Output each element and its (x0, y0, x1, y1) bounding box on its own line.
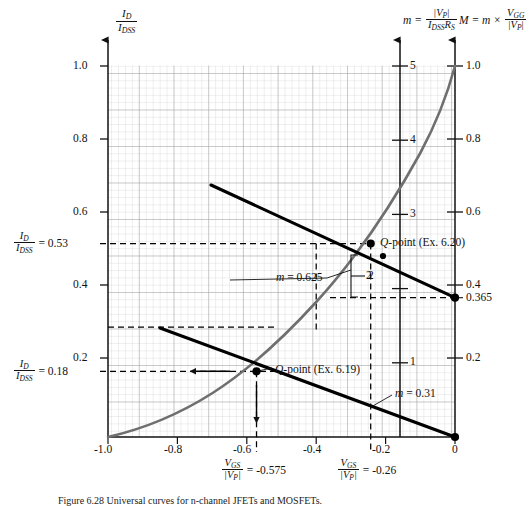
M-tick-2: 0.8 (466, 132, 480, 144)
m-axis-eq-lhs: m = (403, 14, 422, 26)
bottom-tick-2: -0.8 (164, 443, 182, 455)
q-point-619-label: Q-point (Ex. 6.19) (275, 363, 360, 375)
M-tick-5: 0.2 (466, 351, 480, 363)
bracket-2-label: 2 (366, 269, 372, 281)
origin-endpoint-marker (451, 433, 459, 441)
annotation-id-018: ID IDSS = 0.18 (14, 359, 68, 383)
left-tick-1: 1.0 (73, 59, 87, 71)
bottom-tick-1: -1.0 (94, 443, 112, 455)
m-axis-title: m = |VP| IDSSRS (403, 8, 457, 32)
annotation-vgs-0575: VGS |VP| = -0.575 (222, 458, 286, 482)
annotation-id-053-value: = 0.53 (39, 237, 69, 249)
annotation-m-0625: m = 0.625 (276, 271, 322, 283)
bottom-tick-6: 0 (452, 443, 458, 455)
bottom-tick-4: -0.4 (303, 443, 321, 455)
q-point-619-marker (252, 367, 260, 375)
figure-caption: Figure 6.28 Universal curves for n-chann… (58, 495, 322, 506)
m-tick-3: 3 (410, 207, 416, 219)
m-tick-2: 4 (410, 133, 416, 145)
grid-region (108, 66, 455, 438)
left-tick-2: 0.8 (73, 132, 87, 144)
M-axis-eq-lhs: M = m × (459, 14, 501, 26)
annotation-m-031: m = 0.31 (395, 387, 436, 399)
annotation-vgs-0575-value: = -0.575 (247, 464, 286, 476)
M-tick-3: 0.6 (466, 205, 480, 217)
m-endpoint-0365-marker (451, 294, 459, 302)
bracket-top-marker (380, 253, 386, 259)
M-axis-title: M = m × VGG |VP| (459, 8, 526, 32)
M-tick-4: 0.4 (466, 278, 480, 290)
M-tick-0365: 0.365 (466, 291, 492, 303)
annotation-vgs-026-value: = -0.26 (363, 464, 396, 476)
annotation-id-053: ID IDSS = 0.53 (14, 231, 68, 255)
M-tick-1: 1.0 (466, 59, 480, 71)
left-axis (100, 40, 108, 437)
q-point-620-marker (367, 239, 375, 247)
m-tick-5: 1 (410, 355, 416, 367)
q-point-620-label: Q-point (Ex. 6.20) (380, 236, 465, 248)
annotation-vgs-026: VGS |VP| = -0.26 (338, 458, 396, 482)
bottom-tick-5: -0.2 (372, 443, 390, 455)
bottom-tick-3: -0.6 (233, 443, 251, 455)
left-tick-5: 0.2 (73, 351, 87, 363)
left-tick-3: 0.6 (73, 205, 87, 217)
annotation-id-018-value: = 0.18 (39, 365, 69, 377)
bottom-axis (108, 437, 455, 444)
m-tick-1: 5 (410, 59, 416, 71)
left-axis-title: ID IDSS (116, 8, 137, 35)
left-tick-4: 0.4 (73, 278, 87, 290)
